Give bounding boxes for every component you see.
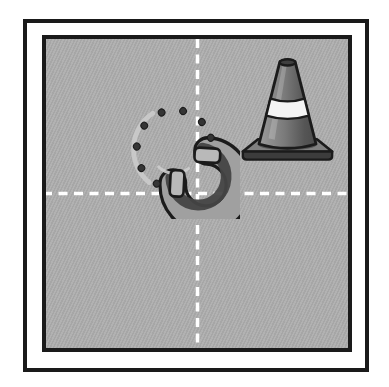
horseshoe-icon <box>112 87 240 219</box>
worksheet-image <box>0 0 389 387</box>
horseshoe-heel-cap <box>194 147 220 163</box>
quadrant-panel <box>42 35 352 352</box>
cone-base-front <box>243 152 332 160</box>
cone-top-opening <box>280 59 295 65</box>
horseshoe-heel-cap <box>169 170 184 197</box>
traffic-cone-icon <box>240 55 335 162</box>
cone-stripe <box>266 99 309 119</box>
outer-frame <box>23 19 369 372</box>
